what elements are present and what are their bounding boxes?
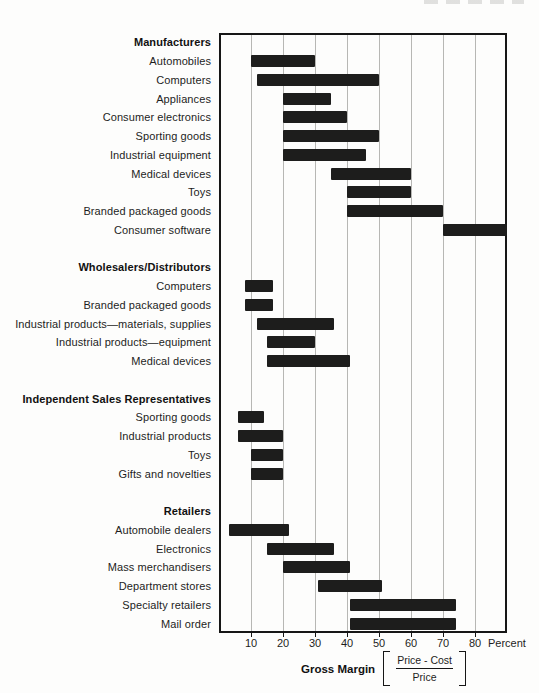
range-bar (283, 93, 331, 105)
axis-tick-label: 40 (331, 637, 363, 649)
range-bar (267, 336, 315, 348)
range-bar (251, 55, 315, 67)
range-bar (267, 355, 350, 367)
chart-row: Consumer software (0, 221, 539, 240)
category-label: Medical devices (0, 355, 211, 367)
section-gap (0, 483, 539, 502)
chart-row: Automobiles (0, 52, 539, 71)
range-bar (257, 318, 334, 330)
category-label: Department stores (0, 580, 211, 592)
chart-row: Mass merchandisers (0, 558, 539, 577)
range-bar (283, 111, 347, 123)
section-header-row: Manufacturers (0, 33, 539, 52)
chart-row: Sporting goods (0, 408, 539, 427)
chart-row: Branded packaged goods (0, 296, 539, 315)
chart-row: Computers (0, 277, 539, 296)
category-label: Medical devices (0, 168, 211, 180)
category-label: Industrial products—equipment (0, 336, 211, 348)
category-label: Computers (0, 74, 211, 86)
chart-row: Medical devices (0, 164, 539, 183)
category-label: Computers (0, 280, 211, 292)
axis-tick-label: 50 (363, 637, 395, 649)
chart-row: Computers (0, 71, 539, 90)
range-bar (238, 411, 264, 423)
chart-row: Sporting goods (0, 127, 539, 146)
chart-row: Branded packaged goods (0, 202, 539, 221)
section-header: Retailers (0, 505, 211, 517)
chart-row: Specialty retailers (0, 596, 539, 615)
category-label: Specialty retailers (0, 599, 211, 611)
section-header: Wholesalers/Distributors (0, 261, 211, 273)
chart-row: Toys (0, 183, 539, 202)
category-label: Toys (0, 449, 211, 461)
category-label: Consumer software (0, 224, 211, 236)
section-gap (0, 239, 539, 258)
chart-row: Industrial equipment (0, 146, 539, 165)
chart-row: Industrial products—equipment (0, 333, 539, 352)
category-label: Automobile dealers (0, 524, 211, 536)
formula-brackets: Price - Cost Price (383, 651, 466, 686)
x-axis-unit-label: Percent (488, 637, 526, 649)
category-label: Branded packaged goods (0, 205, 211, 217)
chart-row: Mail order (0, 614, 539, 633)
range-bar (251, 468, 283, 480)
section-header: Independent Sales Representatives (0, 393, 211, 405)
category-label: Industrial products (0, 430, 211, 442)
chart-row: Medical devices (0, 352, 539, 371)
section-header-row: Retailers (0, 502, 539, 521)
range-bar (350, 618, 456, 630)
range-bar (347, 205, 443, 217)
gross-margin-chart: ManufacturersAutomobilesComputersApplian… (0, 0, 539, 693)
chart-row: Industrial products (0, 427, 539, 446)
category-label: Sporting goods (0, 411, 211, 423)
category-label: Automobiles (0, 55, 211, 67)
chart-row: Electronics (0, 539, 539, 558)
axis-tick-label: 10 (235, 637, 267, 649)
category-label: Industrial products—materials, supplies (0, 318, 211, 330)
range-bar (238, 430, 283, 442)
chart-rows: ManufacturersAutomobilesComputersApplian… (0, 33, 539, 633)
range-bar (245, 280, 274, 292)
category-label: Sporting goods (0, 130, 211, 142)
range-bar (267, 543, 334, 555)
category-label: Industrial equipment (0, 149, 211, 161)
category-label: Toys (0, 186, 211, 198)
axis-tick-label: 80 (459, 637, 491, 649)
category-label: Mass merchandisers (0, 561, 211, 573)
axis-tick-label: 70 (427, 637, 459, 649)
formula-numerator: Price - Cost (395, 654, 454, 668)
axis-tick-label: 20 (267, 637, 299, 649)
cropped-scan-artifact (424, 0, 524, 4)
range-bar (347, 186, 411, 198)
range-bar (283, 149, 366, 161)
range-bar (257, 74, 379, 86)
chart-row: Consumer electronics (0, 108, 539, 127)
chart-row: Industrial products—materials, supplies (0, 314, 539, 333)
range-bar (350, 599, 456, 611)
section-header-row: Wholesalers/Distributors (0, 258, 539, 277)
axis-tick-label: 30 (299, 637, 331, 649)
range-bar (443, 224, 507, 236)
chart-row: Appliances (0, 89, 539, 108)
section-header: Manufacturers (0, 36, 211, 48)
x-axis-title: Gross Margin Price - Cost Price (301, 651, 466, 686)
range-bar (283, 561, 350, 573)
category-label: Appliances (0, 93, 211, 105)
range-bar (245, 299, 274, 311)
chart-row: Department stores (0, 577, 539, 596)
section-header-row: Independent Sales Representatives (0, 389, 539, 408)
range-bar (318, 580, 382, 592)
category-label: Branded packaged goods (0, 299, 211, 311)
range-bar (229, 524, 290, 536)
category-label: Gifts and novelties (0, 468, 211, 480)
chart-row: Gifts and novelties (0, 464, 539, 483)
category-label: Mail order (0, 618, 211, 630)
left-bracket-icon (383, 651, 390, 686)
range-bar (251, 449, 283, 461)
section-gap (0, 371, 539, 390)
gross-margin-label: Gross Margin (301, 663, 375, 675)
category-label: Consumer electronics (0, 111, 211, 123)
right-bracket-icon (459, 651, 466, 686)
range-bar (331, 168, 411, 180)
category-label: Electronics (0, 543, 211, 555)
